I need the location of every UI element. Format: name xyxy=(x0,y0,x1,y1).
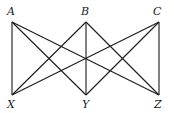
vertex-label-x: X xyxy=(6,98,16,111)
vertex-label-z: Z xyxy=(153,98,162,111)
vertex-label-a: A xyxy=(6,5,15,18)
bipartite-graph-diagram: ABCXYZ xyxy=(0,0,174,113)
vertex-label-b: B xyxy=(80,5,89,18)
vertex-label-c: C xyxy=(153,5,162,18)
edges-group xyxy=(12,22,159,95)
vertex-label-y: Y xyxy=(82,98,91,111)
